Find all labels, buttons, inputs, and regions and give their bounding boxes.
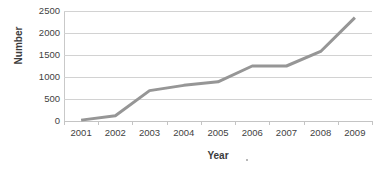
x-tick — [98, 121, 99, 125]
x-tick — [304, 121, 305, 125]
x-tick — [235, 121, 236, 125]
x-tick — [167, 121, 168, 125]
line-chart: Number 05001000150020002500 200120022003… — [0, 0, 385, 176]
x-tick — [269, 121, 270, 125]
y-tick-label: 500 — [24, 94, 60, 104]
y-tick-label: 2000 — [24, 28, 60, 38]
y-tick-label: 0 — [24, 116, 60, 126]
x-axis-title: Year — [64, 150, 372, 161]
x-tick — [201, 121, 202, 125]
data-series-line — [64, 11, 372, 121]
series-number — [81, 18, 355, 121]
plot-area — [64, 11, 372, 121]
x-tick — [372, 121, 373, 125]
x-axis-ticks — [64, 121, 372, 126]
y-tick-label: 1500 — [24, 50, 60, 60]
y-axis-title: Number — [13, 16, 24, 76]
y-axis-tick-labels: 05001000150020002500 — [24, 0, 60, 176]
x-tick — [338, 121, 339, 125]
y-tick-label: 2500 — [24, 6, 60, 16]
stray-mark — [246, 159, 248, 161]
x-tick-label: 2009 — [335, 127, 375, 138]
x-tick — [132, 121, 133, 125]
x-tick — [64, 121, 65, 125]
y-tick-label: 1000 — [24, 72, 60, 82]
x-axis-tick-labels: 200120022003200420052006200720082009 — [64, 127, 372, 141]
